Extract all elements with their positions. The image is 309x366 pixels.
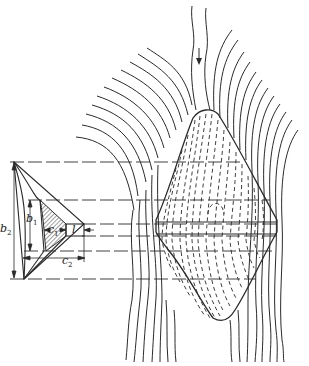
- svg-text:b: b: [0, 222, 7, 235]
- label-l: l: [72, 223, 76, 236]
- label-c2: c 2: [62, 254, 72, 269]
- svg-text:2: 2: [7, 229, 11, 237]
- svg-text:b: b: [26, 212, 33, 225]
- label-b2: b 2: [0, 222, 11, 237]
- svg-text:l: l: [72, 223, 76, 236]
- diagram-canvas: b 2 b 1 c 1 c 2 l: [0, 0, 309, 366]
- label-b1: b 1: [26, 212, 37, 227]
- svg-text:1: 1: [54, 230, 58, 238]
- flow-arrow-icon: [196, 48, 202, 65]
- svg-text:1: 1: [33, 219, 37, 227]
- stream-lines: [76, 6, 298, 362]
- svg-text:2: 2: [68, 261, 72, 269]
